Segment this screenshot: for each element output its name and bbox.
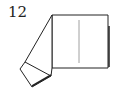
- left-flap: [20, 15, 52, 87]
- paper-square: [52, 15, 108, 68]
- origami-diagram: [0, 0, 117, 94]
